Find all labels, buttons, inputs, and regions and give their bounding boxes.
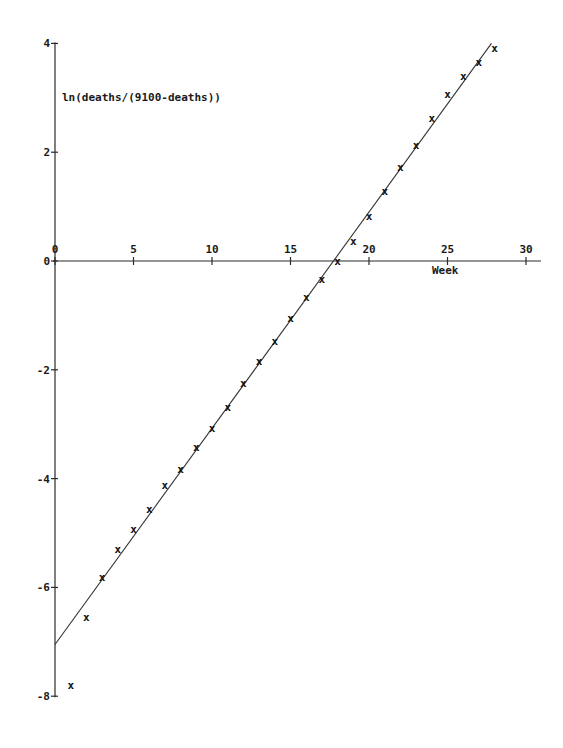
data-point-x-marker: x xyxy=(146,503,153,516)
data-point-x-marker: x xyxy=(287,312,294,325)
y-tick-label: -2 xyxy=(37,364,50,377)
data-points: xxxxxxxxxxxxxxxxxxxxxxxxxxxx xyxy=(67,42,498,693)
x-tick-label: 10 xyxy=(205,243,218,256)
data-point-x-marker: x xyxy=(209,422,216,435)
x-tick-label: 25 xyxy=(441,243,454,256)
data-point-x-marker: x xyxy=(240,377,247,390)
data-point-x-marker: x xyxy=(114,543,121,556)
data-point-x-marker: x xyxy=(428,112,435,125)
data-point-x-marker: x xyxy=(444,88,451,101)
data-point-x-marker: x xyxy=(350,235,357,248)
data-point-x-marker: x xyxy=(334,255,341,268)
data-point-x-marker: x xyxy=(413,139,420,152)
x-tick-label: 5 xyxy=(130,243,137,256)
x-tick-label: 0 xyxy=(52,243,59,256)
data-point-x-marker: x xyxy=(193,441,200,454)
x-tick-label: 15 xyxy=(284,243,297,256)
x-tick-label: 20 xyxy=(362,243,375,256)
data-point-x-marker: x xyxy=(319,273,326,286)
x-ticks: 051015202530 xyxy=(52,243,533,265)
y-tick-label: -4 xyxy=(37,473,51,486)
data-point-x-marker: x xyxy=(491,42,498,55)
y-tick-label: 4 xyxy=(43,37,50,50)
data-point-x-marker: x xyxy=(271,335,278,348)
data-point-x-marker: x xyxy=(476,56,483,69)
data-point-x-marker: x xyxy=(162,479,169,492)
data-point-x-marker: x xyxy=(460,70,467,83)
y-tick-label: 2 xyxy=(43,146,50,159)
data-point-x-marker: x xyxy=(224,401,231,414)
data-point-x-marker: x xyxy=(381,185,388,198)
x-axis-title: Week xyxy=(432,264,459,277)
data-point-x-marker: x xyxy=(99,571,106,584)
x-tick-label: 30 xyxy=(519,243,532,256)
y-tick-label: 0 xyxy=(43,255,50,268)
data-point-x-marker: x xyxy=(83,611,90,624)
data-point-x-marker: x xyxy=(303,291,310,304)
data-point-x-marker: x xyxy=(177,463,184,476)
y-axis-title: ln(deaths/(9100-deaths)) xyxy=(62,91,221,104)
y-tick-label: -8 xyxy=(37,690,50,703)
data-point-x-marker: x xyxy=(256,355,263,368)
axes xyxy=(53,42,541,697)
data-point-x-marker: x xyxy=(130,523,137,536)
scatter-chart: 051015202530 420-2-4-6-8 ln(deaths/(9100… xyxy=(0,0,563,748)
data-point-x-marker: x xyxy=(366,210,373,223)
y-tick-label: -6 xyxy=(37,581,51,594)
data-point-x-marker: x xyxy=(397,161,404,174)
data-point-x-marker: x xyxy=(67,679,74,692)
